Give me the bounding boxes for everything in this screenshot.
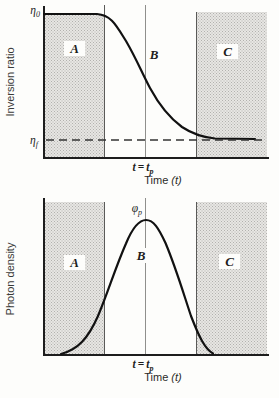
phi-peak-label: φp <box>112 202 142 214</box>
bottom-region-b-label: B <box>134 248 148 263</box>
bottom-ab-boundary-line <box>104 202 105 354</box>
eta-final-label: ηf <box>14 134 38 146</box>
q-switch-figure: Inversion ratio η0 ηf A B C t=tp Time (t… <box>0 0 279 398</box>
bottom-tp-marker: t=tp <box>103 358 183 370</box>
bottom-y-axis-title: Photon density <box>4 234 16 324</box>
bottom-x-axis-title: Time (t) <box>123 371 203 383</box>
top-region-a-shading <box>44 14 104 157</box>
eta-initial-label: η0 <box>16 4 40 16</box>
top-tp-vertical-line <box>145 5 146 157</box>
bottom-y-axis <box>43 198 45 356</box>
bottom-region-a-label: A <box>64 255 85 270</box>
top-y-axis-title: Inversion ratio <box>4 37 16 127</box>
top-x-axis-title: Time (t) <box>123 174 203 186</box>
top-region-c-shading <box>197 12 267 157</box>
bottom-tp-vertical-line <box>145 198 146 354</box>
bottom-bc-boundary-line <box>196 202 197 354</box>
bottom-region-c-shading <box>196 202 267 354</box>
top-region-a-label: A <box>64 41 85 56</box>
top-ab-boundary-line <box>104 5 105 157</box>
bottom-x-axis <box>43 354 269 356</box>
top-region-c-label: C <box>217 44 238 59</box>
bottom-region-a-shading <box>44 202 104 354</box>
top-x-axis <box>43 157 269 159</box>
top-bc-boundary-line <box>196 12 197 157</box>
top-tp-marker: t=tp <box>103 161 183 173</box>
bottom-region-c-label: C <box>219 254 240 269</box>
top-y-axis <box>43 6 45 159</box>
top-region-b-label: B <box>147 47 161 62</box>
